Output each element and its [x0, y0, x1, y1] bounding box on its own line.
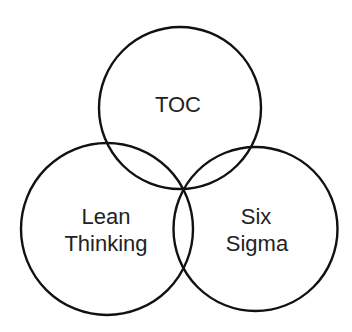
label-six: Six [241, 204, 272, 229]
label-lean: Lean [82, 204, 131, 229]
label-toc: TOC [155, 92, 201, 117]
label-thinking: Thinking [64, 231, 147, 256]
label-sigma: Sigma [226, 231, 289, 256]
circle-lean-thinking [21, 143, 193, 315]
circle-six-sigma [174, 147, 338, 311]
venn-diagram: TOC Lean Thinking Six Sigma [0, 0, 352, 332]
